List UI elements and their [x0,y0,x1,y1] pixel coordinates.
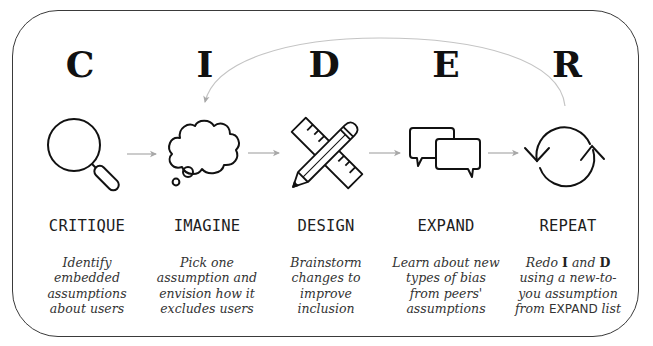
step-description-imagine: Pick one assumption and envision how it … [142,255,272,316]
step-description-expand: Learn about new types of bias from peers… [381,255,511,316]
thought-cloud-icon [169,121,239,186]
description-line: inclusion [261,301,391,316]
description-line: Identify [22,255,152,270]
description-line: improve [261,286,391,301]
step-letter-i: I [175,44,235,84]
description-line: Redo I and D [503,255,633,270]
step-letter-d: D [294,44,354,84]
description-line: from EXPAND list [503,301,633,317]
description-line: assumptions [22,286,152,301]
description-line: assumption and [142,270,272,285]
step-label-expand: EXPAND [381,217,511,235]
pencil-ruler-icon [288,118,362,192]
description-line: excludes users [142,301,272,316]
loop-arrow [205,38,565,106]
description-line: Brainstorm [261,255,391,270]
description-line: Learn about new [381,255,511,270]
step-letter-e: E [416,44,476,84]
description-line: from peers' [381,286,511,301]
description-line: assumptions [381,301,511,316]
step-letter-r: R [537,44,597,84]
text-run: and [568,255,599,270]
description-line: about users [22,301,152,316]
description-line: using a new-to- [503,270,633,285]
description-line: types of bias [381,270,511,285]
step-label-imagine: IMAGINE [142,217,272,235]
text-run: from [515,301,549,316]
description-line: Pick one [142,255,272,270]
step-description-design: Brainstorm changes to improve inclusion [261,255,391,316]
description-line: embedded [22,270,152,285]
step-label-critique: CRITIQUE [22,217,152,235]
step-letter-c: C [50,44,110,84]
text-run: list [598,301,621,316]
refresh-cycle-icon [525,127,604,186]
speech-bubbles-icon [410,128,480,177]
step-label-repeat: REPEAT [503,217,633,235]
step-description-repeat: Redo I and D using a new-to- you assumpt… [503,255,633,317]
step-reference-expand: EXPAND [549,302,598,316]
magnifying-glass-icon [48,119,121,193]
step-reference-d: D [599,255,610,270]
text-run: Redo [526,255,562,270]
description-line: you assumption [503,286,633,301]
description-line: envision how it [142,286,272,301]
description-line: changes to [261,270,391,285]
step-description-critique: Identify embedded assumptions about user… [22,255,152,316]
step-label-design: DESIGN [261,217,391,235]
